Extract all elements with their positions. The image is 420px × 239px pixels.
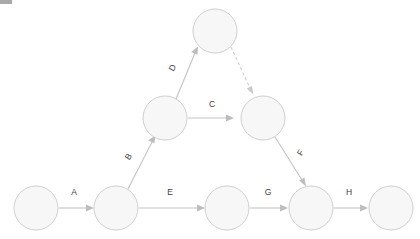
node-n6[interactable] [143,96,187,140]
edge-d-line [176,53,195,99]
edge-g-arrowhead [280,205,288,212]
edge-dashed [231,47,254,95]
edge-labels-layer: A B C D E F G H [71,63,352,198]
edge-label-a: A [71,187,77,197]
edge-b [128,136,156,190]
edge-label-h: H [346,187,352,197]
edge-label-f: F [295,148,306,157]
edge-e [139,205,205,212]
edge-f-arrowhead [299,177,306,186]
edge-label-g: G [265,187,272,197]
node-n5[interactable] [369,186,413,230]
node-n8[interactable] [193,9,237,53]
edge-label-c: C [209,99,215,109]
edge-a-arrowhead [86,205,94,212]
node-n7[interactable] [241,96,285,140]
node-n1[interactable] [14,186,58,230]
node-n2[interactable] [94,186,138,230]
edges-layer [59,47,368,212]
edge-d [176,47,198,100]
graph-diagram: A B C D E F G H [0,0,420,239]
edge-c-arrowhead [226,115,234,122]
node-n4[interactable] [289,186,333,230]
edge-dashed-arrowhead [247,86,254,95]
node-n3[interactable] [205,186,249,230]
edge-d-arrowhead [191,47,198,55]
edge-f [275,137,306,187]
edge-label-d: D [166,63,178,73]
edge-c [188,115,234,122]
edge-g [250,205,288,212]
edge-b-line [128,142,152,189]
edge-dashed-line [231,47,250,88]
diagram-canvas: A B C D E F G H [0,0,420,239]
edge-e-arrowhead [197,205,205,212]
edge-a [59,205,94,212]
edge-h-arrowhead [360,205,368,212]
edge-h [334,205,368,212]
edge-f-line [275,137,302,180]
edge-label-b: B [123,151,135,161]
edge-label-e: E [167,187,173,197]
